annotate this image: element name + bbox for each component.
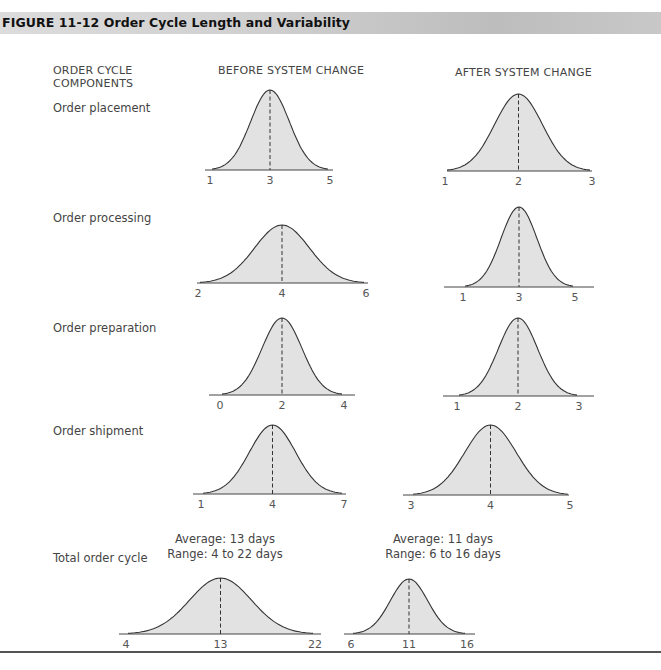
tick-max: 4 [341,399,348,412]
tick-mean: 2 [515,400,522,413]
tick-mean: 4 [487,499,494,512]
tick-min: 1 [198,498,205,511]
order-preparation-before-distribution: 024 [209,318,355,412]
tick-mean: 13 [214,638,228,651]
order-placement-after-distribution: 123 [442,94,596,188]
tick-mean: 3 [516,291,523,304]
order-shipment-before-distribution: 147 [193,425,348,511]
tick-min: 4 [123,638,130,651]
tick-min: 1 [207,174,214,187]
order-placement-before-distribution: 135 [205,90,334,187]
order-preparation-after-distribution: 123 [443,318,594,413]
tick-min: 6 [348,638,355,651]
tick-max: 5 [572,291,579,304]
tick-max: 7 [341,498,348,511]
tick-max: 3 [576,400,583,413]
tick-mean: 4 [279,287,286,300]
tick-max: 16 [460,638,474,651]
tick-mean: 3 [267,174,274,187]
tick-min: 2 [195,287,202,300]
tick-min: 3 [408,499,415,512]
tick-mean: 4 [269,498,276,511]
order-shipment-after-distribution: 345 [403,425,574,512]
tick-max: 5 [327,174,334,187]
distribution-charts: 1351232461350241231473454132261116 [0,0,661,670]
bottom-rule [0,651,661,653]
tick-min: 1 [442,175,449,188]
total-order-cycle-before-distribution: 41322 [119,578,322,651]
tick-max: 22 [308,638,322,651]
tick-min: 1 [460,291,467,304]
tick-max: 3 [589,175,596,188]
tick-min: 1 [454,400,461,413]
order-processing-after-distribution: 135 [444,207,594,304]
order-processing-before-distribution: 246 [195,225,370,300]
tick-max: 6 [363,287,370,300]
tick-min: 0 [217,399,224,412]
tick-mean: 11 [402,638,416,651]
tick-max: 5 [567,499,574,512]
tick-mean: 2 [279,399,286,412]
tick-mean: 2 [515,175,522,188]
total-order-cycle-after-distribution: 61116 [344,579,475,651]
